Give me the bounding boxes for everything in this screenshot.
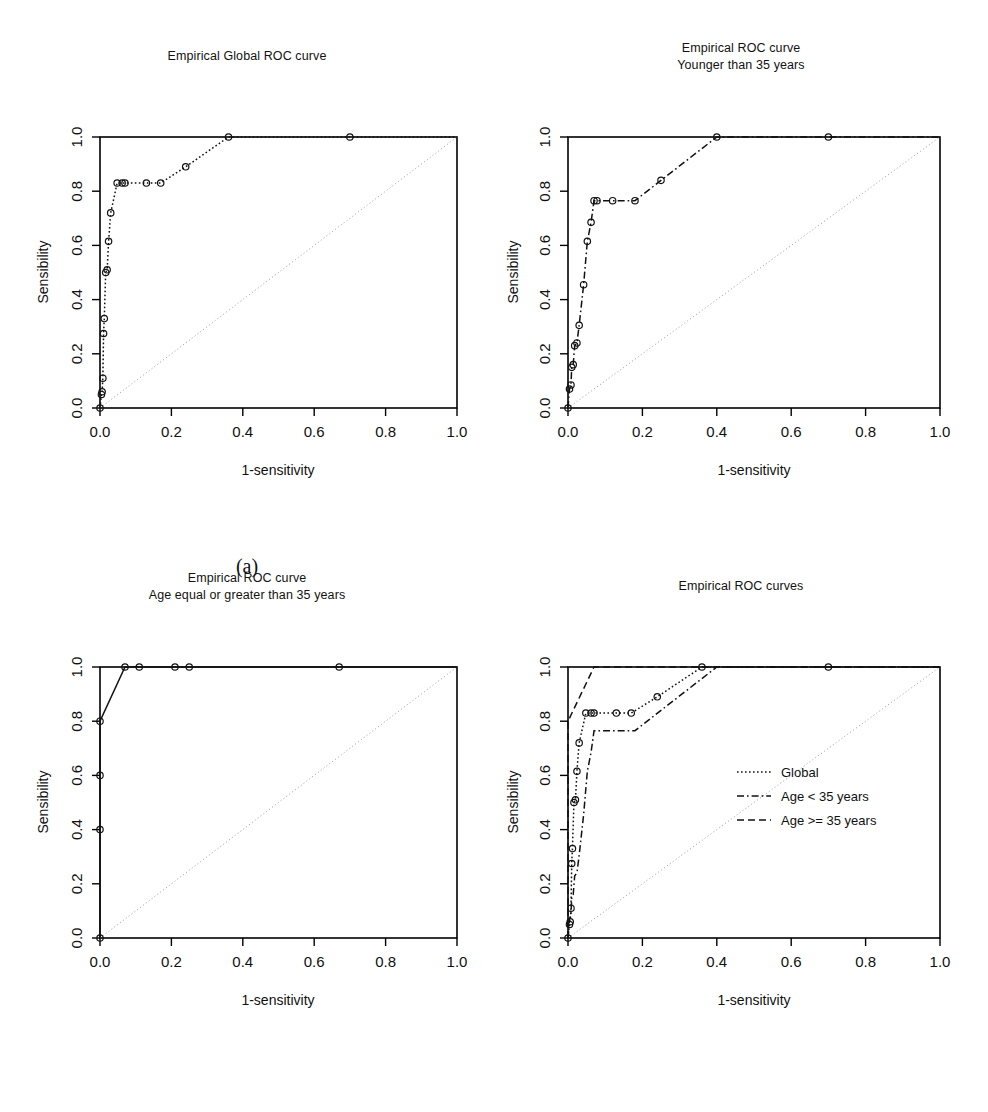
x-tick-label: 0.8 (375, 953, 396, 970)
x-tick-label: 0.4 (706, 423, 727, 440)
x-tick-label: 0.6 (781, 423, 802, 440)
roc-series-age-gte-35 (97, 664, 457, 941)
y-axis-title: Sensibility (505, 770, 521, 833)
x-axis-title: 1-sensitivity (717, 462, 790, 478)
x-tick-label: 0.4 (706, 953, 727, 970)
reference-diagonal (568, 667, 940, 938)
x-axis-title: 1-sensitivity (717, 992, 790, 1008)
panel-b-plot: 0.0 0.2 0.4 0.6 0.8 1.0 0.0 0.2 0.4 0.6 … (494, 30, 988, 530)
y-tick-label: 1.0 (536, 657, 553, 678)
roc-series-global (97, 134, 457, 411)
reference-diagonal (100, 137, 457, 408)
reference-diagonal (100, 667, 457, 938)
panel-d-plot: 0.0 0.2 0.4 0.6 0.8 1.0 0.0 0.2 0.4 0.6 … (494, 560, 988, 1060)
roc-point-marker (654, 694, 660, 700)
x-tick-label: 1.0 (447, 953, 468, 970)
reference-diagonal (568, 137, 940, 408)
roc-point-marker (609, 197, 615, 203)
panel-d: Empirical ROC curves 0.0 0.2 0.4 0.6 (494, 560, 988, 1090)
y-tick-label: 0.8 (536, 181, 553, 202)
y-tick-label: 0.4 (68, 819, 85, 840)
y-tick-label: 0.0 (68, 398, 85, 419)
y-tick-label: 0.8 (536, 711, 553, 732)
x-tick-label: 0.2 (632, 423, 653, 440)
x-axis-title: 1-sensitivity (241, 462, 314, 478)
x-tick-label: 0.8 (855, 423, 876, 440)
y-tick-label: 0.2 (536, 343, 553, 364)
panel-c: Empirical ROC curve Age equal or greater… (0, 560, 494, 1090)
x-tick-label: 0.0 (558, 423, 579, 440)
x-tick-label: 0.6 (781, 953, 802, 970)
x-tick-label: 1.0 (447, 423, 468, 440)
y-tick-label: 0.6 (536, 235, 553, 256)
legend-label-age-gte-35: Age >= 35 years (781, 813, 877, 828)
x-tick-label: 0.2 (632, 953, 653, 970)
panel-c-plot: 0.0 0.2 0.4 0.6 0.8 1.0 0.0 0.2 0.4 0.6 … (0, 560, 494, 1060)
y-tick-label: 0.4 (536, 289, 553, 310)
x-tick-label: 0.0 (90, 423, 111, 440)
panel-d-axes: 0.0 0.2 0.4 0.6 0.8 1.0 0.0 0.2 0.4 0.6 … (505, 657, 950, 1008)
panel-b: Empirical ROC curve Younger than 35 year… (494, 30, 988, 560)
x-tick-label: 0.4 (232, 423, 253, 440)
y-tick-label: 1.0 (68, 127, 85, 148)
y-tick-label: 0.0 (536, 398, 553, 419)
panel-a-axes: 0.0 0.2 0.4 0.6 0.8 1.0 0.0 0.2 0.4 0.6 … (35, 127, 467, 478)
x-tick-label: 0.8 (375, 423, 396, 440)
y-tick-label: 0.2 (68, 343, 85, 364)
x-tick-label: 1.0 (930, 423, 951, 440)
y-axis-title: Sensibility (35, 770, 51, 833)
x-tick-label: 0.2 (161, 423, 182, 440)
x-tick-label: 0.0 (90, 953, 111, 970)
y-tick-label: 0.6 (68, 235, 85, 256)
y-tick-label: 1.0 (536, 127, 553, 148)
y-tick-label: 0.4 (536, 819, 553, 840)
roc-figure-grid: Empirical Global ROC curve 0.0 (0, 0, 988, 1112)
legend: Global Age < 35 years Age >= 35 years (737, 765, 877, 828)
y-tick-label: 0.0 (68, 928, 85, 949)
y-axis-title: Sensibility (35, 240, 51, 303)
roc-point-marker (157, 180, 163, 186)
panel-b-axes: 0.0 0.2 0.4 0.6 0.8 1.0 0.0 0.2 0.4 0.6 … (505, 127, 950, 478)
roc-point-marker (101, 315, 107, 321)
y-tick-label: 0.4 (68, 289, 85, 310)
x-tick-label: 0.0 (558, 953, 579, 970)
y-tick-label: 0.6 (536, 765, 553, 786)
y-tick-label: 0.2 (68, 873, 85, 894)
x-tick-label: 0.2 (161, 953, 182, 970)
x-tick-label: 1.0 (930, 953, 951, 970)
y-axis-title: Sensibility (505, 240, 521, 303)
y-tick-label: 1.0 (68, 657, 85, 678)
x-tick-label: 0.6 (304, 953, 325, 970)
panel-a: Empirical Global ROC curve 0.0 (0, 30, 494, 560)
legend-label-global: Global (781, 765, 819, 780)
y-tick-label: 0.0 (536, 928, 553, 949)
y-tick-label: 0.8 (68, 711, 85, 732)
roc-point-marker (182, 164, 188, 170)
x-tick-label: 0.6 (304, 423, 325, 440)
x-axis-title: 1-sensitivity (241, 992, 314, 1008)
y-tick-label: 0.6 (68, 765, 85, 786)
x-tick-label: 0.4 (232, 953, 253, 970)
panel-a-plot: 0.0 0.2 0.4 0.6 0.8 1.0 0.0 0.2 0.4 0.6 … (0, 30, 494, 530)
y-tick-label: 0.8 (68, 181, 85, 202)
legend-label-age-lt-35: Age < 35 years (781, 789, 869, 804)
y-tick-label: 0.2 (536, 873, 553, 894)
x-tick-label: 0.8 (855, 953, 876, 970)
roc-point-marker (569, 845, 575, 851)
roc-point-marker (576, 740, 582, 746)
